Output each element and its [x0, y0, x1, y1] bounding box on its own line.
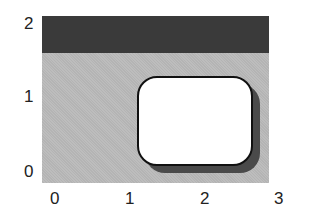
x-tick-1: 1	[125, 190, 134, 207]
top-band	[42, 16, 269, 53]
y-tick-1: 1	[24, 88, 33, 105]
plot-area	[42, 16, 269, 183]
y-tick-2: 2	[24, 15, 33, 32]
x-tick-3: 3	[274, 190, 283, 207]
x-tick-0: 0	[50, 190, 59, 207]
rounded-rectangle	[137, 76, 253, 166]
y-tick-0: 0	[24, 163, 33, 180]
x-tick-2: 2	[200, 190, 209, 207]
